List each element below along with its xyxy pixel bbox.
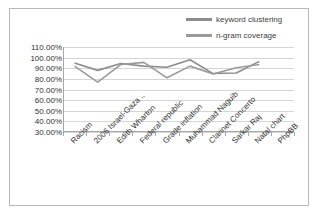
series-line	[75, 60, 260, 74]
y-axis-labels: 110.00%100.00%90.00%80.00%70.00%60.00%50…	[16, 42, 62, 137]
legend-item-n-gram-coverage[interactable]: n-gram coverage	[186, 30, 306, 41]
legend-swatch-keyword-clustering	[186, 18, 212, 21]
legend-label-keyword-clustering: keyword clustering	[216, 15, 282, 24]
y-axis-tick-label: 80.00%	[35, 75, 62, 84]
chart-legend: keyword clustering n-gram coverage	[186, 14, 306, 41]
y-axis-tick-label: 40.00%	[35, 117, 62, 126]
chart-figure: keyword clustering n-gram coverage 110.0…	[9, 8, 309, 206]
legend-item-keyword-clustering[interactable]: keyword clustering	[186, 14, 306, 25]
y-axis-tick-label: 60.00%	[35, 96, 62, 105]
y-axis-tick-label: 90.00%	[35, 64, 62, 73]
y-axis-tick-label: 70.00%	[35, 86, 62, 95]
legend-swatch-n-gram-coverage	[186, 34, 212, 37]
series-line	[75, 62, 260, 82]
y-axis-tick-label: 100.00%	[30, 54, 62, 63]
legend-label-n-gram-coverage: n-gram coverage	[216, 31, 276, 40]
x-axis-labels: Racism2006 Israel-Gaza ..Edith WhartonFe…	[10, 133, 310, 203]
y-axis-tick-label: 110.00%	[31, 43, 62, 52]
y-axis-tick-label: 50.00%	[35, 107, 62, 116]
